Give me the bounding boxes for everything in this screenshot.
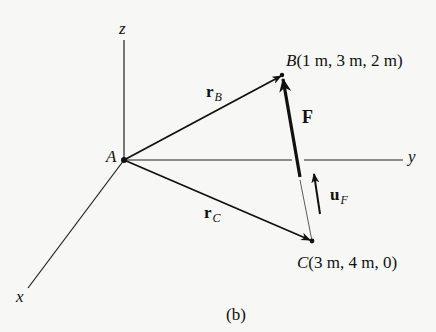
point-C xyxy=(310,239,315,244)
point-C-label: C(3 m, 4 m, 0) xyxy=(297,254,397,271)
rB-symbol: r xyxy=(206,82,214,101)
point-A xyxy=(121,157,127,163)
unit-vector-uF xyxy=(314,174,320,214)
figure-caption: (b) xyxy=(226,306,246,323)
line-of-action xyxy=(300,180,312,241)
x-axis xyxy=(28,160,124,288)
uF-label: uF xyxy=(330,186,348,203)
position-vector-rC xyxy=(124,160,310,240)
point-C-name: C xyxy=(297,253,308,272)
x-axis-label: x xyxy=(16,288,24,305)
point-B-name: B xyxy=(286,51,296,70)
uF-subscript: F xyxy=(340,193,347,207)
rB-subscript: B xyxy=(215,90,222,104)
F-label: F xyxy=(302,108,313,126)
point-B xyxy=(280,73,284,77)
rC-subscript: C xyxy=(213,211,221,225)
position-vector-rB xyxy=(124,76,281,160)
rC-symbol: r xyxy=(204,203,212,222)
rB-label: rB xyxy=(206,83,222,100)
point-B-coords: (1 m, 3 m, 2 m) xyxy=(296,51,402,70)
force-vector-F xyxy=(283,79,300,177)
rC-label: rC xyxy=(204,204,221,221)
origin-label-A: A xyxy=(106,148,116,165)
point-C-coords: (3 m, 4 m, 0) xyxy=(308,253,397,272)
force-vector-diagram xyxy=(0,0,436,332)
point-B-label: B(1 m, 3 m, 2 m) xyxy=(286,52,403,69)
z-axis-label: z xyxy=(119,20,126,37)
y-axis-label: y xyxy=(408,148,416,165)
uF-symbol: u xyxy=(330,185,339,204)
